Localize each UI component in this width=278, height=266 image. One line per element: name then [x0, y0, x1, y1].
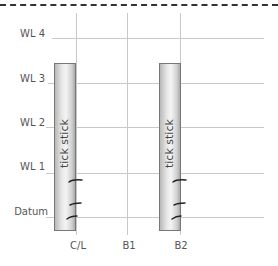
tick-mark-b2-3: [172, 216, 181, 219]
tick-mark-cl-3: [67, 216, 77, 219]
tick-mark-b2-2: [174, 203, 185, 205]
tick-marks: [0, 0, 278, 266]
tick-mark-cl-1: [69, 180, 82, 182]
tick-mark-cl-2: [70, 203, 81, 205]
tick-mark-b2-1: [173, 180, 186, 182]
